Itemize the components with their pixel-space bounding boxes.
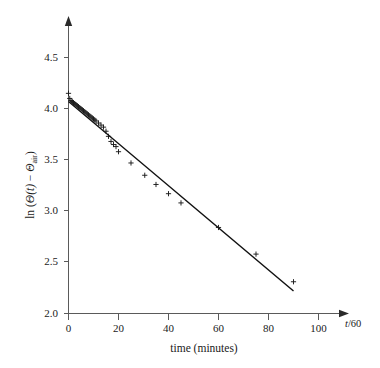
x-tick-label-40: 40 [163,322,175,334]
y-axis-title-prefix: ln ( [24,203,37,219]
fit-line [69,102,294,291]
y-axis-arrow-icon [65,16,72,26]
x-tick-label-group: 0 20 40 60 80 100 [66,322,328,334]
data-point-marker [166,191,171,196]
fit-line-segment [69,102,294,291]
y-axis-title-group: ln (Θ(t) − Θair) [24,151,39,219]
x-axis-title: time (minutes) [170,342,238,355]
x-tick-group [69,314,319,320]
y-tick-label-2.5: 2.5 [44,255,58,267]
x-tick-label-0: 0 [66,322,72,334]
x-tick-label-60: 60 [213,322,225,334]
y-tick-label-4.0: 4.0 [44,102,58,114]
y-tick-label-4.5: 4.5 [44,51,58,63]
x-axis-end-label: t/60 [345,318,361,329]
data-point-marker [128,160,133,165]
y-tick-label-2.0: 2.0 [44,307,58,319]
x-tick-label-20: 20 [113,322,125,334]
y-axis-title-of-t: (t) [24,184,37,195]
y-tick-label-group: 4.5 4.0 3.5 3.0 2.5 2.0 [44,51,58,319]
data-point-marker [142,173,147,178]
cooling-curve-figure: 4.5 4.0 3.5 3.0 2.5 2.0 0 20 40 60 80 10… [0,0,380,368]
x-tick-label-80: 80 [263,322,275,334]
x-tick-label-100: 100 [310,322,327,334]
y-axis-title-suffix: ) [24,151,37,155]
y-tick-label-3.0: 3.0 [44,204,58,216]
data-point-marker [66,91,71,96]
data-point-marker [103,129,108,134]
axis-group [65,16,349,317]
data-point-group [66,91,296,285]
y-tick-label-3.5: 3.5 [44,153,58,165]
x-axis-arrow-icon [339,310,349,317]
y-axis-title-minus: − [24,172,36,184]
data-point-marker [153,182,158,187]
data-point-marker [291,279,296,284]
x-axis-end-label-rest: /60 [348,318,361,329]
plot-canvas: 4.5 4.0 3.5 3.0 2.5 2.0 0 20 40 60 80 10… [0,0,380,368]
y-axis-title: ln (Θ(t) − Θair) [24,151,39,219]
data-point-marker [178,200,183,205]
y-tick-group [64,58,69,314]
data-point-marker [116,149,121,154]
data-point-marker [253,252,258,257]
